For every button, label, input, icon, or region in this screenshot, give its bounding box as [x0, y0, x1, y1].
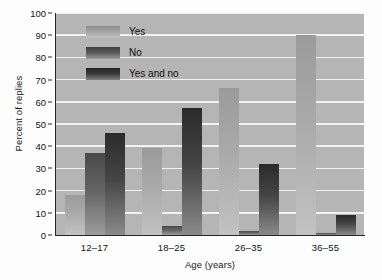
y-tick-label: 90 — [35, 30, 46, 41]
legend-label: Yes — [129, 26, 145, 37]
plot-area: YesNoYes and no — [56, 13, 364, 235]
y-tick-mark — [48, 168, 52, 169]
legend-swatch-icon — [86, 47, 120, 59]
legend-entry: No — [86, 42, 179, 63]
legend-label: No — [129, 47, 142, 58]
legend-swatch-icon — [86, 68, 120, 80]
x-tick-label: 26–35 — [235, 242, 262, 253]
y-tick-label: 100 — [30, 8, 46, 19]
x-axis-line — [55, 235, 365, 236]
bar — [85, 153, 105, 235]
y-tick-mark — [48, 235, 52, 236]
x-tick-label: 12–17 — [81, 242, 108, 253]
y-tick-mark — [48, 212, 52, 213]
bar — [182, 108, 202, 235]
y-tick-mark — [48, 79, 52, 80]
y-tick-mark — [48, 13, 52, 14]
bar — [296, 35, 316, 235]
bar — [162, 226, 182, 235]
y-tick-label: 70 — [35, 74, 46, 85]
y-tick-label: 10 — [35, 207, 46, 218]
y-axis-line — [55, 13, 56, 236]
y-tick-label: 40 — [35, 141, 46, 152]
y-tick-label: 60 — [35, 96, 46, 107]
bar — [142, 148, 162, 235]
y-tick-label: 20 — [35, 185, 46, 196]
legend-entry: Yes — [86, 21, 179, 42]
y-tick-mark — [48, 57, 52, 58]
y-tick-label: 50 — [35, 119, 46, 130]
bar — [259, 164, 279, 235]
chart-legend: YesNoYes and no — [86, 21, 179, 84]
x-tick-label: 36–55 — [312, 242, 339, 253]
y-axis-tick-labels: 0102030405060708090100 — [16, 13, 52, 235]
legend-entry: Yes and no — [86, 63, 179, 84]
y-tick-mark — [48, 35, 52, 36]
y-tick-mark — [48, 190, 52, 191]
y-tick-mark — [48, 124, 52, 125]
y-tick-mark — [48, 101, 52, 102]
x-axis-tick-labels: 12–1718–2526–3536–55 — [56, 242, 364, 256]
y-tick-mark — [48, 146, 52, 147]
bar — [65, 195, 85, 235]
y-tick-label: 30 — [35, 163, 46, 174]
bar-chart-figure: Percent of replies 010203040506070809010… — [0, 0, 382, 280]
y-tick-label: 0 — [41, 230, 46, 241]
legend-label: Yes and no — [129, 68, 179, 79]
bar — [219, 88, 239, 235]
y-tick-label: 80 — [35, 52, 46, 63]
bar — [336, 215, 356, 235]
x-axis-title: Age (years) — [56, 259, 364, 270]
bar — [105, 133, 125, 235]
x-tick-label: 18–25 — [158, 242, 185, 253]
legend-swatch-icon — [86, 26, 120, 38]
